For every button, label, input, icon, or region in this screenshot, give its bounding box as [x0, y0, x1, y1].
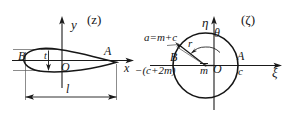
thickness-label-t: t — [44, 51, 47, 61]
z-plane-panel: y x A B O t l (z) — [0, 0, 150, 120]
construction-ray — [177, 47, 206, 66]
angle-label-theta: θ — [214, 27, 220, 39]
zeta-origin-label: O — [213, 63, 222, 75]
zeta-axis-eta-label: η — [202, 16, 208, 29]
zeta-coordinate-label-c: c — [238, 66, 243, 77]
annotation-a-equals-m-plus-c: a=m+c — [144, 32, 177, 43]
z-axis-y-label: y — [71, 18, 77, 31]
zeta-point-label-b: B — [170, 51, 177, 63]
z-plane-label: (z) — [87, 13, 101, 26]
zeta-axis-xi-label: ξ — [272, 66, 278, 79]
trailing-edge-label-a: A — [104, 45, 111, 57]
z-axis-x-label: x — [124, 62, 129, 74]
chord-dimension-line — [26, 94, 117, 100]
leading-edge-label-b: B — [18, 50, 25, 62]
zeta-plane-label: (ζ) — [241, 13, 255, 26]
z-origin-label: O — [61, 61, 70, 73]
angle-arc-theta — [206, 47, 221, 53]
z-construction-lines — [13, 50, 117, 101]
center-offset-label-m: m — [200, 65, 208, 76]
radius-label-r: r — [188, 38, 192, 49]
zeta-point-label-a: A — [237, 50, 244, 62]
annotation-minus-c-plus-2m: −(c+2m) — [135, 65, 176, 76]
chord-label-l: l — [66, 83, 69, 95]
z-axis-y — [59, 16, 65, 88]
joukowski-transformation-figure: y x A B O t l (z) — [0, 0, 301, 120]
zeta-plane-panel: η ξ (ζ) a=m+c −(c+2m) B A c O m r θ — [148, 0, 301, 120]
